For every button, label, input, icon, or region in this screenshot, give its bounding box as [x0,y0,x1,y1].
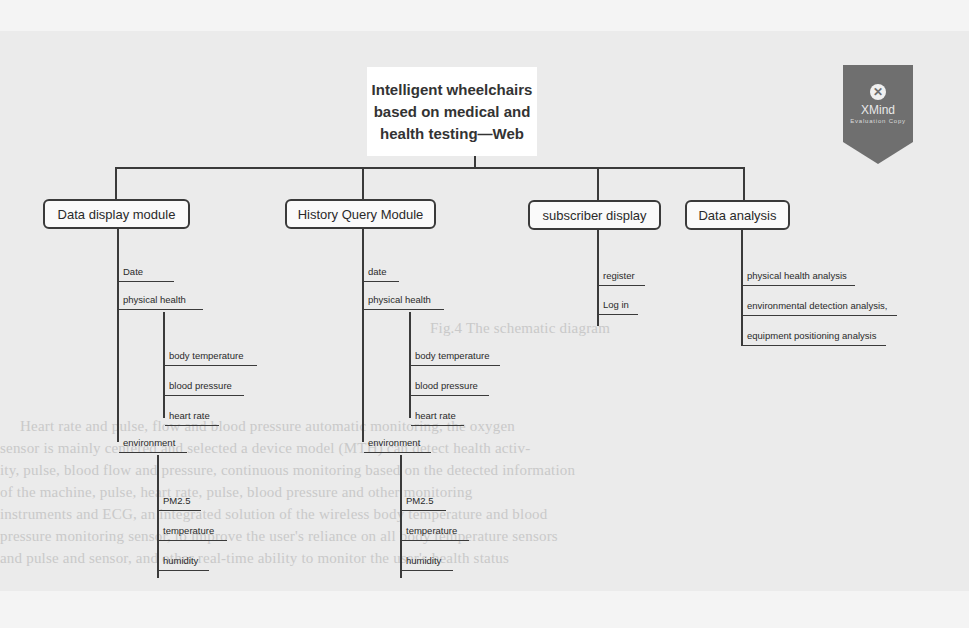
body-text-line: instruments and ECG, an integrated solut… [0,506,969,523]
node-blood-pressure[interactable]: blood pressure [165,380,244,396]
subtree-line [741,230,743,346]
node-pm25[interactable]: PM2.5 [402,495,446,511]
topic-label: Data display module [58,207,176,222]
node-label: heart rate [415,410,456,421]
root-topic-label: Intelligent wheelchairs based on medical… [367,79,537,145]
branch-connector [115,167,117,199]
node-label: humidity [163,555,198,566]
topic-data-display-module[interactable]: Data display module [43,199,190,229]
node-label: equipment positioning analysis [747,330,876,341]
node-heart-rate[interactable]: heart rate [411,410,464,426]
subtree-line [362,229,364,442]
root-connector [474,156,476,167]
node-date[interactable]: date [364,266,399,282]
node-physical-health[interactable]: physical health [119,294,203,310]
node-label: date [368,266,387,277]
xmind-watermark-title: XMind [843,103,913,117]
body-text-line: pressure monitoring sensor, to improve t… [0,528,969,545]
xmind-watermark-tip [843,142,913,164]
node-pm25[interactable]: PM2.5 [159,495,201,511]
branch-connector [597,167,599,200]
node-body-temperature[interactable]: body temperature [411,350,500,366]
topic-data-analysis[interactable]: Data analysis [685,200,790,230]
node-label: heart rate [169,410,210,421]
node-label: temperature [163,525,214,536]
node-label: humidity [406,555,441,566]
body-text-line: of the machine, pulse, heart rate, pulse… [0,484,969,501]
topic-label: Data analysis [698,208,776,223]
main-branch-line [115,167,745,169]
node-label: physical health [123,294,186,305]
subtree-line [117,229,119,442]
node-label: register [603,270,635,281]
node-log-in[interactable]: Log in [599,299,638,315]
xmind-close-icon: ✕ [870,84,886,100]
branch-connector [362,167,364,199]
xmind-watermark-subtitle: Evaluation Copy [843,118,913,124]
node-physical-health-analysis[interactable]: physical health analysis [743,270,855,286]
root-topic[interactable]: Intelligent wheelchairs based on medical… [367,67,537,156]
node-label: Log in [603,299,629,310]
node-label: body temperature [169,350,243,361]
topic-history-query-module[interactable]: History Query Module [285,199,436,229]
node-label: physical health [368,294,431,305]
node-humidity[interactable]: humidity [402,555,453,571]
node-heart-rate[interactable]: heart rate [165,410,219,426]
node-label: blood pressure [169,380,232,391]
node-label: temperature [406,525,457,536]
node-blood-pressure[interactable]: blood pressure [411,380,489,396]
node-label: PM2.5 [406,495,433,506]
figure-caption: Fig.4 The schematic diagram [430,320,630,337]
topic-label: History Query Module [298,207,424,222]
node-equipment-positioning-analysis[interactable]: equipment positioning analysis [743,330,886,346]
node-temperature[interactable]: temperature [159,525,227,541]
node-environment[interactable]: environment [364,437,431,453]
node-environmental-detection-analysis[interactable]: environmental detection analysis, [743,300,897,316]
node-date[interactable]: Date [119,266,174,282]
node-label: environment [368,437,420,448]
node-physical-health[interactable]: physical health [364,294,444,310]
node-label: Date [123,266,143,277]
node-label: body temperature [415,350,489,361]
node-temperature[interactable]: temperature [402,525,469,541]
topic-label: subscriber display [542,208,646,223]
node-label: physical health analysis [747,270,847,281]
node-register[interactable]: register [599,270,645,286]
node-label: environmental detection analysis, [747,300,887,311]
node-label: blood pressure [415,380,478,391]
topic-subscriber-display[interactable]: subscriber display [528,200,661,230]
node-environment[interactable]: environment [119,437,187,453]
node-body-temperature[interactable]: body temperature [165,350,257,366]
body-text-line: ity, pulse, blood flow and pressure, con… [0,462,969,479]
node-label: PM2.5 [163,495,190,506]
body-text-line: Heart rate and pulse, flow and blood pre… [20,418,969,435]
node-label: environment [123,437,175,448]
body-text-line: and pulse and sensor, and other real-tim… [0,550,969,567]
node-humidity[interactable]: humidity [159,555,209,571]
branch-connector [743,167,745,200]
